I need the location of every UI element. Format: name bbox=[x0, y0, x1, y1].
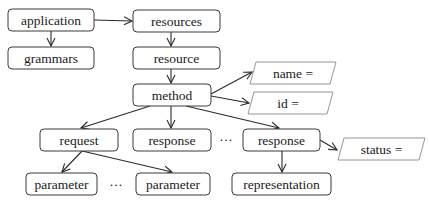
node-application: application bbox=[8, 9, 94, 31]
node-label: resources bbox=[151, 14, 202, 29]
resource-tree-diagram: application grammars resources resource … bbox=[0, 0, 429, 204]
node-response-2: response bbox=[243, 129, 320, 151]
node-label: application bbox=[21, 13, 81, 28]
node-label: resource bbox=[154, 51, 200, 66]
ellipsis-responses: … bbox=[219, 129, 233, 144]
attr-label: name = bbox=[273, 66, 313, 81]
edge-response2-status bbox=[320, 140, 337, 150]
edge-request-parameter2 bbox=[82, 151, 172, 172]
node-label: response bbox=[258, 133, 305, 148]
node-resources: resources bbox=[133, 10, 220, 32]
node-label: method bbox=[152, 88, 193, 103]
edge-method-id bbox=[211, 96, 249, 103]
attr-status: status = bbox=[338, 138, 425, 160]
node-label: parameter bbox=[146, 177, 200, 192]
node-request: request bbox=[40, 129, 118, 151]
node-label: parameter bbox=[35, 177, 89, 192]
attr-label: status = bbox=[361, 142, 403, 157]
node-representation: representation bbox=[232, 173, 331, 195]
node-parameter-1: parameter bbox=[26, 173, 97, 195]
edge-method-name bbox=[211, 72, 252, 94]
node-response-1: response bbox=[133, 129, 211, 151]
attr-name: name = bbox=[250, 62, 336, 84]
node-grammars: grammars bbox=[8, 47, 94, 69]
attr-id: id = bbox=[248, 92, 333, 114]
node-parameter-2: parameter bbox=[136, 173, 210, 195]
node-label: request bbox=[60, 133, 99, 148]
node-resource: resource bbox=[133, 47, 220, 69]
node-label: response bbox=[148, 133, 195, 148]
attr-label: id = bbox=[277, 96, 299, 111]
node-label: representation bbox=[243, 177, 320, 192]
node-method: method bbox=[133, 84, 211, 106]
edge-request-parameter1 bbox=[62, 151, 82, 172]
node-label: grammars bbox=[24, 51, 78, 66]
edge-application-resources bbox=[94, 20, 132, 21]
edge-method-request bbox=[81, 106, 150, 128]
ellipsis-parameters: … bbox=[109, 174, 123, 189]
